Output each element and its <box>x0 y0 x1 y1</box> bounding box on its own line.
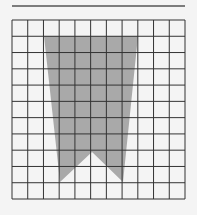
banner-grid-diagram <box>0 0 197 215</box>
